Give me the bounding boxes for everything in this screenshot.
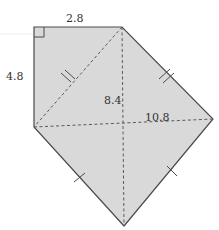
label-top-edge: 2.8	[66, 12, 84, 25]
label-vertical-dashed: 8.4	[104, 94, 122, 107]
label-horizontal-dashed: 10.8	[145, 111, 170, 124]
geometry-figure: 2.8 4.8 8.4 10.8	[0, 0, 219, 230]
label-left-edge: 4.8	[6, 70, 24, 83]
